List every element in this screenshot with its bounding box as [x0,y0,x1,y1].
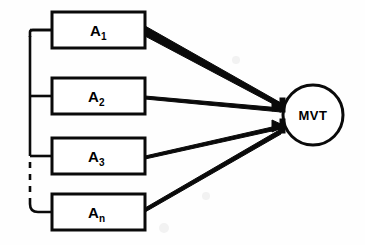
diagram-canvas: A 1 A 2 A 3 A n MVT [0,0,365,245]
box-a2-subscript: 2 [99,97,105,108]
junction-upper-bar [280,98,285,112]
junction-lower-bar [280,119,285,133]
box-a1[interactable]: A 1 [52,12,145,48]
box-a3-subscript: 3 [99,157,105,168]
scan-speck [159,223,169,233]
mvt-label: MVT [298,108,327,123]
box-a3-base: A [88,148,99,165]
box-a3[interactable]: A 3 [52,138,145,174]
scan-speck [232,56,240,64]
box-an[interactable]: A n [52,194,145,230]
box-an-subscript: n [99,213,105,224]
box-an-base: A [88,204,99,221]
scan-speck [202,192,210,200]
block-diagram: A 1 A 2 A 3 A n MVT [0,0,365,245]
box-a2-base: A [88,88,99,105]
box-a1-subscript: 1 [101,31,107,42]
box-a2[interactable]: A 2 [52,78,145,114]
box-a1-base: A [90,22,101,39]
